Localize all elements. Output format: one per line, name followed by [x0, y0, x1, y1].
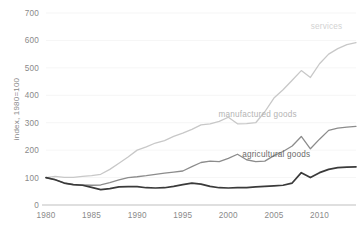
x-axis-tick-label: 1985 [82, 211, 101, 220]
series-line-agricultural-goods [46, 167, 356, 190]
series-label-agricultural-goods: agricultural goods [242, 150, 310, 159]
line-chart: 0100200300400500600700index, 1980=100198… [0, 0, 361, 238]
x-axis-tick-label: 2000 [219, 211, 238, 220]
y-axis-tick-label: 400 [25, 91, 40, 100]
x-axis-tick-label: 1995 [173, 211, 192, 220]
chart-container: 0100200300400500600700index, 1980=100198… [0, 0, 361, 238]
x-axis-tick-label: 1990 [128, 211, 147, 220]
x-axis-tick-label: 2010 [310, 211, 329, 220]
y-axis-tick-label: 500 [25, 64, 40, 73]
x-axis-tick-label: 2005 [264, 211, 283, 220]
series-label-services: services [311, 22, 343, 31]
y-axis-tick-label: 300 [25, 119, 40, 128]
y-axis-tick-label: 700 [25, 9, 40, 18]
y-axis-tick-label: 600 [25, 36, 40, 45]
x-axis-tick-label: 1980 [36, 211, 55, 220]
series-label-manufactured-goods: manufactured goods [218, 110, 296, 119]
y-axis-tick-label: 100 [25, 174, 40, 183]
y-axis-tick-label: 200 [25, 146, 40, 155]
y-axis-tick-label: 0 [34, 201, 39, 210]
y-axis-title: index, 1980=100 [12, 77, 21, 140]
